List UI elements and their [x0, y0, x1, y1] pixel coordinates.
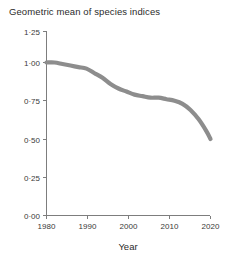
y-tick-label: 1·25 [24, 28, 41, 37]
chart-figure: Geometric mean of species indices 0·00 0… [0, 0, 233, 265]
x-axis-tick-labels: 1980 1990 2000 2010 2020 [38, 222, 220, 231]
x-axis-title: Year [118, 241, 137, 252]
y-axis-tick-labels: 0·00 0·25 0·50 0·75 1·00 1·25 [24, 28, 41, 221]
y-tick-label: 0·50 [24, 136, 41, 145]
chart-plot-area: 0·00 0·25 0·50 0·75 1·00 1·25 1980 1990 … [0, 0, 233, 265]
x-tick-label: 2020 [202, 222, 220, 231]
y-axis-ticks [43, 32, 47, 216]
data-series-line [47, 62, 211, 139]
y-tick-label: 1·00 [24, 59, 41, 68]
y-tick-label: 0·75 [24, 97, 41, 106]
x-tick-label: 1980 [38, 222, 56, 231]
x-tick-label: 2000 [120, 222, 138, 231]
x-tick-label: 1990 [79, 222, 97, 231]
y-tick-label: 0·25 [24, 174, 41, 183]
x-axis-ticks [47, 216, 211, 220]
x-tick-label: 2010 [161, 222, 179, 231]
y-tick-label: 0·00 [24, 212, 41, 221]
